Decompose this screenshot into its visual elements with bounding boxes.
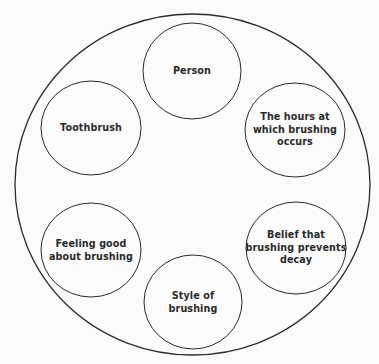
node-label-line: Toothbrush xyxy=(60,122,122,135)
node-label-line: brushing prevents xyxy=(246,242,347,255)
node-label-line: The hours at xyxy=(253,111,337,124)
node-label-line: Belief that xyxy=(246,229,347,242)
node-label-line: about brushing xyxy=(49,250,133,263)
diagram: PersonToothbrushThe hours atwhich brushi… xyxy=(0,0,379,364)
node-label-line: Feeling good xyxy=(49,238,133,251)
node-label-line: which brushing xyxy=(253,124,337,137)
node-label-hours: The hours atwhich brushingoccurs xyxy=(253,111,337,149)
node-label-line: decay xyxy=(246,254,347,267)
node-label-style: Style ofbrushing xyxy=(169,290,218,315)
node-label-belief: Belief thatbrushing preventsdecay xyxy=(246,229,347,267)
node-label-line: occurs xyxy=(253,136,337,149)
node-label-person: Person xyxy=(173,65,211,78)
node-label-line: Style of xyxy=(169,290,218,303)
node-label-toothbrush: Toothbrush xyxy=(60,122,122,135)
node-label-line: brushing xyxy=(169,302,218,315)
node-label-line: Person xyxy=(173,65,211,78)
node-label-feeling-good: Feeling goodabout brushing xyxy=(49,238,133,263)
